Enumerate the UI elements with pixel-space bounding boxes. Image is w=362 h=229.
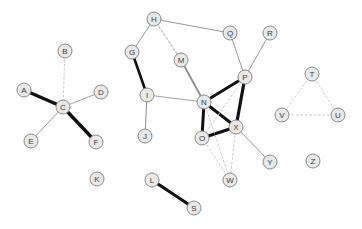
node-circle-S[interactable] bbox=[187, 201, 201, 215]
graph-node-Y[interactable]: Y bbox=[263, 155, 277, 169]
graph-node-R[interactable]: R bbox=[263, 26, 277, 40]
graph-node-G[interactable]: G bbox=[125, 45, 139, 59]
node-circle-I[interactable] bbox=[140, 88, 154, 102]
graph-node-N[interactable]: N bbox=[197, 95, 211, 109]
node-circle-D[interactable] bbox=[94, 85, 108, 99]
node-circle-K[interactable] bbox=[90, 172, 104, 186]
node-circle-B[interactable] bbox=[58, 44, 72, 58]
network-graph-canvas: ABCDEFGHIJKLMNOPQRSTUVWXYZ bbox=[0, 0, 362, 229]
node-circle-W[interactable] bbox=[223, 173, 237, 187]
graph-node-C[interactable]: C bbox=[56, 100, 70, 114]
node-circle-T[interactable] bbox=[305, 67, 319, 81]
graph-edge-I-N bbox=[147, 95, 204, 102]
node-circle-Y[interactable] bbox=[263, 155, 277, 169]
graph-node-E[interactable]: E bbox=[24, 134, 38, 148]
node-circle-C[interactable] bbox=[56, 100, 70, 114]
graph-edge-R-P bbox=[245, 33, 270, 77]
graph-node-S[interactable]: S bbox=[187, 201, 201, 215]
node-circle-G[interactable] bbox=[125, 45, 139, 59]
node-layer: ABCDEFGHIJKLMNOPQRSTUVWXYZ bbox=[17, 12, 345, 215]
graph-node-V[interactable]: V bbox=[275, 108, 289, 122]
node-circle-J[interactable] bbox=[138, 129, 152, 143]
graph-edge-P-X bbox=[236, 77, 245, 127]
node-circle-A[interactable] bbox=[17, 83, 31, 97]
node-circle-L[interactable] bbox=[145, 173, 159, 187]
graph-node-U[interactable]: U bbox=[331, 108, 345, 122]
graph-node-F[interactable]: F bbox=[89, 135, 103, 149]
graph-node-L[interactable]: L bbox=[145, 173, 159, 187]
graph-edge-L-S bbox=[152, 180, 194, 208]
node-circle-E[interactable] bbox=[24, 134, 38, 148]
node-circle-X[interactable] bbox=[229, 120, 243, 134]
graph-node-W[interactable]: W bbox=[223, 173, 237, 187]
graph-edge-O-W bbox=[202, 138, 230, 180]
node-circle-P[interactable] bbox=[238, 70, 252, 84]
node-circle-O[interactable] bbox=[195, 131, 209, 145]
graph-node-P[interactable]: P bbox=[238, 70, 252, 84]
graph-edge-T-V bbox=[282, 74, 312, 115]
node-circle-N[interactable] bbox=[197, 95, 211, 109]
node-circle-F[interactable] bbox=[89, 135, 103, 149]
graph-node-Z[interactable]: Z bbox=[306, 154, 320, 168]
node-circle-V[interactable] bbox=[275, 108, 289, 122]
graph-node-O[interactable]: O bbox=[195, 131, 209, 145]
graph-edge-X-W bbox=[230, 127, 236, 180]
graph-node-B[interactable]: B bbox=[58, 44, 72, 58]
graph-node-Q[interactable]: Q bbox=[223, 26, 237, 40]
node-circle-Q[interactable] bbox=[223, 26, 237, 40]
graph-node-M[interactable]: M bbox=[174, 53, 188, 67]
node-circle-H[interactable] bbox=[147, 12, 161, 26]
graph-edge-B-C bbox=[63, 51, 65, 107]
graph-node-I[interactable]: I bbox=[140, 88, 154, 102]
graph-edge-H-Q bbox=[154, 19, 230, 33]
graph-node-H[interactable]: H bbox=[147, 12, 161, 26]
graph-node-D[interactable]: D bbox=[94, 85, 108, 99]
node-circle-U[interactable] bbox=[331, 108, 345, 122]
node-circle-Z[interactable] bbox=[306, 154, 320, 168]
node-circle-R[interactable] bbox=[263, 26, 277, 40]
graph-node-T[interactable]: T bbox=[305, 67, 319, 81]
graph-svg: ABCDEFGHIJKLMNOPQRSTUVWXYZ bbox=[0, 0, 362, 229]
graph-node-K[interactable]: K bbox=[90, 172, 104, 186]
graph-node-A[interactable]: A bbox=[17, 83, 31, 97]
graph-node-X[interactable]: X bbox=[229, 120, 243, 134]
node-circle-M[interactable] bbox=[174, 53, 188, 67]
graph-node-J[interactable]: J bbox=[138, 129, 152, 143]
